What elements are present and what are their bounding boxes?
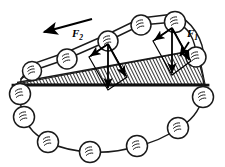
ball-chain-1 (193, 87, 214, 108)
ball-incline-2 (57, 49, 77, 69)
ball-chain-6 (14, 107, 35, 128)
ball-incline-1 (23, 62, 42, 81)
force-label-f2: F2 (71, 27, 83, 42)
physics-figure-container: F2 F1 (0, 0, 225, 167)
direction-of-motion-arrow (44, 19, 92, 32)
normal-vector-right (155, 28, 173, 40)
ball-chain-wedge-diagram: F2 F1 (0, 0, 225, 167)
ball-incline-4 (131, 15, 151, 35)
ball-incline-5 (165, 12, 186, 33)
ball-chain-3 (127, 136, 148, 157)
ball-chain-4 (80, 142, 101, 163)
ball-chain-5 (38, 132, 59, 153)
ball-chain-7 (10, 84, 31, 105)
ball-chain-2 (168, 118, 189, 139)
force-label-f1: F1 (186, 27, 198, 42)
